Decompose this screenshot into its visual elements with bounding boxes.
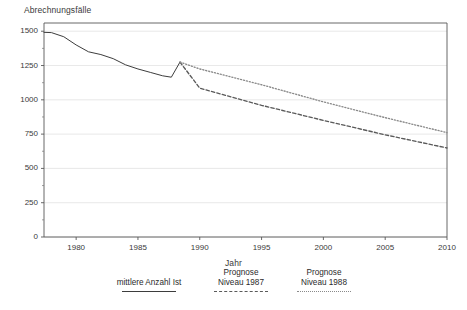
legend-entry-0: mittlere Anzahl Ist	[108, 278, 190, 292]
legend-entry-1: PrognoseNiveau 1987	[200, 268, 282, 292]
x-tick-label: 1995	[242, 243, 282, 252]
legend-swatch-dashed	[214, 291, 268, 292]
y-tick-label: 250	[4, 198, 38, 207]
x-axis-title: Jahr	[225, 258, 242, 268]
chart-legend: mittlere Anzahl IstPrognoseNiveau 1987Pr…	[0, 268, 467, 310]
legend-swatch-solid	[122, 291, 176, 292]
legend-entry-2: PrognoseNiveau 1988	[283, 268, 365, 292]
y-tick-label: 0	[4, 232, 38, 241]
x-tick-label: 1985	[118, 243, 158, 252]
series-line-0	[44, 32, 180, 77]
x-tick-label: 2005	[365, 243, 405, 252]
y-tick-label: 1000	[4, 95, 38, 104]
x-tick-label: 2010	[427, 243, 467, 252]
series-line-1	[180, 62, 447, 148]
y-tick-label: 500	[4, 163, 38, 172]
legend-swatch-dotted	[297, 291, 351, 292]
y-tick-label: 1250	[4, 61, 38, 70]
legend-label-line1: mittlere Anzahl Ist	[108, 278, 190, 288]
legend-label-line1: Prognose	[200, 268, 282, 278]
y-tick-label: 1500	[4, 26, 38, 35]
chart-container: Abrechnungsfälle 0250500750100012501500 …	[0, 0, 467, 310]
legend-label-line2: Niveau 1988	[283, 278, 365, 288]
series-line-2	[180, 62, 447, 133]
x-tick-label: 1980	[56, 243, 96, 252]
x-tick-label: 1990	[180, 243, 220, 252]
y-tick-label: 750	[4, 129, 38, 138]
x-tick-label: 2000	[303, 243, 343, 252]
legend-label-line2: Niveau 1987	[200, 278, 282, 288]
legend-label-line1: Prognose	[283, 268, 365, 278]
